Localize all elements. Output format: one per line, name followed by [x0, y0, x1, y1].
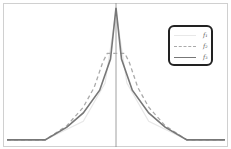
chart-plot-area	[0, 0, 231, 149]
legend-swatch-f3	[174, 57, 196, 58]
legend-label-f3: f₃	[203, 51, 208, 63]
legend-swatch-f2	[174, 46, 196, 47]
legend-item-f3: f₃	[174, 51, 212, 63]
legend-swatch-f1	[174, 35, 196, 36]
chart-legend: f₁ f₂ f₃	[168, 25, 213, 66]
